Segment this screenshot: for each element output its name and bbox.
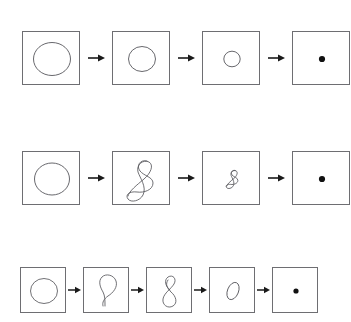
right-arrow-icon — [130, 285, 145, 295]
arrow-r3-3 — [192, 267, 209, 313]
panel-r1p1 — [22, 31, 80, 85]
arrow-r2-2 — [170, 151, 202, 205]
sequence-row-3 — [20, 267, 318, 313]
loop-with-tail-curve — [84, 268, 130, 314]
arrow-r1-3 — [260, 31, 292, 85]
tilted-ellipse-curve — [210, 268, 256, 314]
arrow-r3-2 — [129, 267, 146, 313]
right-arrow-icon — [67, 285, 82, 295]
right-arrow-icon — [266, 172, 286, 184]
right-arrow-icon — [266, 52, 286, 64]
large-figure-eight-curve — [113, 152, 171, 206]
right-arrow-icon — [176, 52, 196, 64]
figure-eight-curve — [147, 268, 193, 314]
large-circle-curve — [23, 152, 81, 206]
sequence-row-2 — [22, 151, 350, 205]
panel-r2p4 — [292, 151, 350, 205]
panel-r2p1 — [22, 151, 80, 205]
panel-r1p3 — [202, 31, 260, 85]
arrow-r1-2 — [170, 31, 202, 85]
panel-r1p4 — [292, 31, 350, 85]
point-dot — [273, 268, 319, 314]
point-dot — [293, 32, 351, 86]
right-arrow-icon — [256, 285, 271, 295]
panel-r3p3 — [146, 267, 192, 313]
right-arrow-icon — [86, 172, 106, 184]
small-figure-eight-curve — [203, 152, 261, 206]
arrow-r2-1 — [80, 151, 112, 205]
right-arrow-icon — [193, 285, 208, 295]
right-arrow-icon — [176, 172, 196, 184]
arrow-r1-1 — [80, 31, 112, 85]
point-dot — [293, 152, 351, 206]
arrow-r2-3 — [260, 151, 292, 205]
panel-r1p2 — [112, 31, 170, 85]
panel-r3p5 — [272, 267, 318, 313]
panel-r3p2 — [83, 267, 129, 313]
circle-curve — [21, 268, 67, 314]
small-circle-curve — [203, 32, 261, 86]
right-arrow-icon — [86, 52, 106, 64]
large-circle-curve — [23, 32, 81, 86]
medium-circle-curve — [113, 32, 171, 86]
panel-r2p3 — [202, 151, 260, 205]
arrow-r3-4 — [255, 267, 272, 313]
panel-r2p2 — [112, 151, 170, 205]
panel-r3p1 — [20, 267, 66, 313]
panel-r3p4 — [209, 267, 255, 313]
sequence-row-1 — [22, 31, 350, 85]
arrow-r3-1 — [66, 267, 83, 313]
